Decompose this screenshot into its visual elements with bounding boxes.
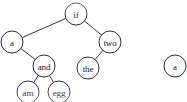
node-label-a: a <box>10 38 14 48</box>
tree-node-the[interactable]: the <box>77 57 99 79</box>
tree-edge-and-egg <box>50 76 54 83</box>
node-label-and: and <box>38 62 51 72</box>
tree-node-a2[interactable]: a <box>164 55 186 77</box>
node-label-am: am <box>23 88 34 98</box>
tree-edge-if-a <box>22 18 66 37</box>
tree-node-two[interactable]: two <box>99 31 121 53</box>
node-label-the: the <box>83 64 94 74</box>
tree-edge-and-am <box>34 75 38 82</box>
tree-edge-two-the <box>95 50 103 59</box>
tree-diagram-canvas: ifatwoandtheamegga <box>0 0 187 102</box>
tree-edge-if-two <box>84 21 101 35</box>
tree-node-a[interactable]: a <box>1 31 23 53</box>
tree-node-if[interactable]: if <box>65 3 87 25</box>
tree-nodes: ifatwoandtheamegga <box>1 3 186 102</box>
tree-diagram-svg: ifatwoandtheamegga <box>0 0 187 102</box>
tree-edge-a-and <box>21 49 35 60</box>
tree-node-and[interactable]: and <box>33 55 55 77</box>
node-label-egg: egg <box>53 88 66 98</box>
node-label-a2: a <box>173 62 177 72</box>
node-label-two: two <box>103 38 117 48</box>
node-label-if: if <box>73 10 78 20</box>
tree-node-egg[interactable]: egg <box>48 81 70 102</box>
tree-node-am[interactable]: am <box>17 81 39 102</box>
